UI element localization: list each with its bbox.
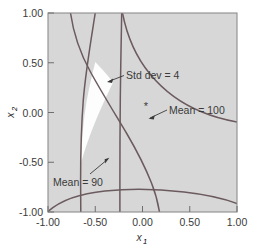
x-tick-labels: -1.00 -0.50 0.00 0.50 1.00 <box>36 216 247 228</box>
x-tick-label-2: 0.00 <box>132 216 153 228</box>
x-axis-title-main: x <box>135 231 142 243</box>
y-axis-title: x 2 <box>4 106 19 119</box>
y-axis-title-subscript: 2 <box>10 106 19 112</box>
y-tick-labels: 1.00 0.50 0.00 -0.50 -1.00 <box>19 7 43 218</box>
x-axis-title-subscript: 1 <box>143 237 147 246</box>
annotation-mean-100-label: Mean = 100 <box>169 104 225 116</box>
y-tick-label-1: 0.50 <box>23 57 44 69</box>
y-tick-label-0: 1.00 <box>23 7 44 19</box>
x-tick-label-4: 1.00 <box>227 216 248 228</box>
x-axis-title: x 1 <box>135 231 147 246</box>
plot-canvas: 1.00 0.50 0.00 -0.50 -1.00 -1.00 -0.50 0… <box>0 0 258 251</box>
design-point-marker: * <box>144 100 149 112</box>
x-tick-label-0: -1.00 <box>36 216 60 228</box>
x-tick-label-1: -0.50 <box>83 216 107 228</box>
y-axis-title-main: x <box>4 112 16 119</box>
annotation-std-dev-label: Std dev = 4 <box>126 69 180 81</box>
x-tick-label-3: 0.50 <box>180 216 201 228</box>
annotation-mean-90-label: Mean = 90 <box>53 176 103 188</box>
y-tick-label-3: -0.50 <box>19 156 43 168</box>
contour-plot-figure: 1.00 0.50 0.00 -0.50 -1.00 -1.00 -0.50 0… <box>0 0 258 251</box>
y-tick-label-2: 0.00 <box>23 107 44 119</box>
